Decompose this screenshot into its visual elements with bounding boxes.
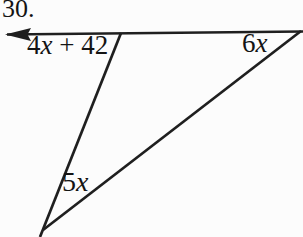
angle-variable: x [256,28,268,58]
angle-label-top-right: 6x [242,30,267,57]
angle-label-bottom: 5x [62,168,88,196]
geometry-problem-figure: 30. 4x + 42 6x 5x [0,0,303,237]
angle-variable: x [76,166,88,197]
triangle-left-side-line [40,33,121,237]
angle-coefficient: 5 [62,166,76,197]
angle-variable: x [41,30,53,60]
problem-number: 30. [2,0,35,22]
angle-label-exterior-top-left: 4x + 42 [27,32,108,59]
angle-coefficient: 4 [27,30,41,60]
angle-coefficient: 6 [242,28,256,58]
angle-suffix: + 42 [52,30,108,60]
